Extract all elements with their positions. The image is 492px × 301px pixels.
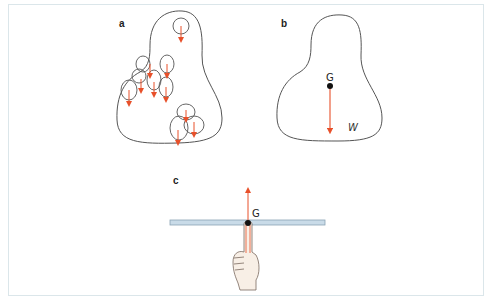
centre-of-gravity-point-c [245,220,251,226]
panel-a: a [117,11,222,143]
centre-of-gravity-label-b: G [326,72,334,83]
panel-c-label: c [173,175,179,186]
small-parts [121,18,204,140]
centre-of-gravity-point-b [327,83,333,89]
centre-of-gravity-label-c: G [252,208,260,219]
panel-c: c G [170,175,325,290]
panel-b: b G W [277,15,382,141]
panel-b-label: b [281,18,287,29]
weight-label-b: W [348,122,359,133]
panel-a-label: a [119,18,125,29]
figure-canvas: a b G [0,0,492,301]
body-outline-a [117,11,222,143]
